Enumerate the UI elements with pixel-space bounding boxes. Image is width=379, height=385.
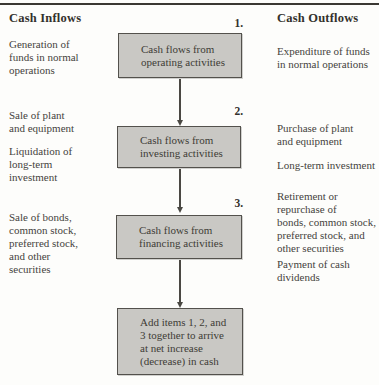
outflow-item-retirement: Retirement or repurchase of bonds, commo… [277,190,376,255]
outflow-item-dividends: Payment of cash dividends [277,258,350,284]
outflow-item-purchase-plant: Purchase of plant and equipment [277,122,353,148]
flow-box-financing: Cash flows from financing activities [116,215,242,259]
inflows-header: Cash Inflows [9,11,81,26]
flow-box-financing-label: Cash flows from financing activities [139,224,223,250]
step-number-1: 1. [200,17,243,29]
arrow-investing-to-financing [176,169,184,213]
flow-box-investing: Cash flows from investing activities [117,126,241,168]
arrow-stem [179,169,180,207]
step-number-2: 2. [200,105,243,117]
arrow-down-icon [177,302,183,308]
arrow-financing-to-net [176,260,184,308]
arrow-stem [179,260,180,302]
arrow-down-icon [177,207,183,213]
flow-box-investing-label: Cash flows from investing activities [140,134,223,160]
outflow-item-expenditure: Expenditure of funds in normal operation… [277,45,370,71]
arrow-stem [179,79,180,120]
inflow-item-liquidation: Liquidation of long-term investment [9,145,72,184]
flow-box-net-increase: Add items 1, 2, and 3 together to arrive… [117,308,243,375]
arrow-operating-to-investing [176,79,184,126]
outflow-item-longterm-investment: Long-term investment [277,159,375,172]
top-rule [0,3,379,5]
flow-box-operating: Cash flows from operating activities [118,33,242,78]
inflow-item-operating: Generation of funds in normal operations [9,38,79,77]
flow-box-net-increase-label: Add items 1, 2, and 3 together to arrive… [140,316,226,368]
outflows-header: Cash Outflows [277,11,358,26]
inflow-item-sale-securities: Sale of bonds, common stock, preferred s… [9,211,78,276]
flow-box-operating-label: Cash flows from operating activities [141,43,225,69]
arrow-down-icon [177,120,183,126]
inflow-item-sale-plant: Sale of plant and equipment [9,109,74,135]
step-number-3: 3. [200,197,243,209]
